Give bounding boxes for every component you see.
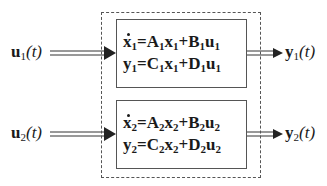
input-label-u2: u2(t) [11,123,42,143]
subsystem-1-box: x1=A1x1+B1u1 y1=C1x1+D1u1 [116,19,247,88]
output-label-y1: y1(t) [285,42,315,62]
input-label-u1: u1(t) [11,42,42,62]
output-equation-2: y2=C2x2+D2u2 [123,135,221,155]
output-label-y2: y2(t) [285,123,315,143]
x-dot: x [123,113,132,133]
state-equation-2: x2=A2x2+B2u2 [123,113,220,133]
state-equation-1: x1=A1x1+B1u1 [123,32,220,52]
subsystem-2-box: x2=A2x2+B2u2 y2=C2x2+D2u2 [116,100,247,169]
output-equation-1: y1=C1x1+D1u1 [123,54,221,74]
x-dot: x [123,32,132,52]
